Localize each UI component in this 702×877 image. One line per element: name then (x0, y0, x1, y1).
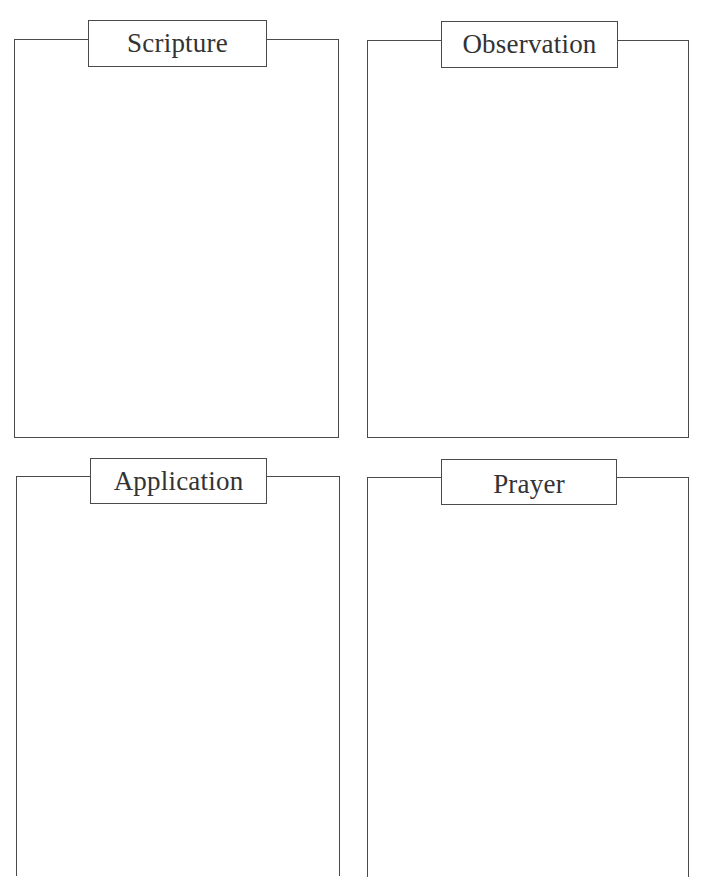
scripture-label: Scripture (127, 28, 228, 59)
scripture-label-box: Scripture (88, 20, 267, 67)
application-writing-area[interactable] (16, 476, 340, 876)
observation-label-box: Observation (441, 21, 618, 68)
prayer-label: Prayer (493, 469, 565, 500)
application-label: Application (114, 466, 244, 497)
observation-label: Observation (462, 29, 596, 60)
observation-writing-area[interactable] (367, 40, 689, 438)
prayer-label-box: Prayer (441, 459, 617, 505)
application-label-box: Application (90, 458, 267, 504)
prayer-writing-area[interactable] (367, 477, 689, 877)
scripture-writing-area[interactable] (14, 39, 339, 438)
